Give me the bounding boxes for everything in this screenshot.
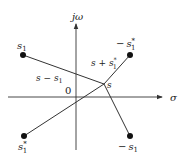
label-s1-conj: s*1: [18, 140, 27, 155]
vector-diagram: jω σ 0 s1 −s*1 s*1 −s1 s s − s1 s + s*1: [0, 0, 186, 164]
vector-s1-conj-to-s: [24, 84, 104, 136]
origin-label: 0: [65, 85, 71, 96]
sigma-label: σ: [170, 92, 178, 103]
label-s-minus-s1: s − s1: [36, 73, 63, 85]
point-s1-conj: [21, 133, 27, 139]
label-neg-s1: −s1: [118, 141, 138, 154]
jomega-label: jω: [70, 11, 83, 22]
label-s1: s1: [17, 40, 27, 53]
label-s: s: [107, 80, 112, 90]
point-neg-s1-conj: [127, 52, 133, 58]
point-neg-s1: [127, 133, 133, 139]
label-neg-s1-conj: −s*1: [116, 37, 136, 52]
label-s-plus-s1-conj: s + s*1: [91, 56, 118, 71]
vector-neg-s1-to-s: [104, 84, 130, 136]
